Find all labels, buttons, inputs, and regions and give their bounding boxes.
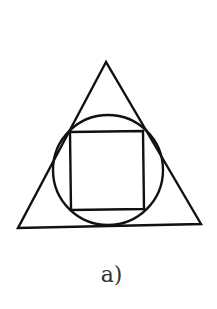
triangle-shape bbox=[18, 62, 201, 228]
figure-caption: a) bbox=[0, 262, 217, 287]
square-shape bbox=[70, 131, 144, 210]
